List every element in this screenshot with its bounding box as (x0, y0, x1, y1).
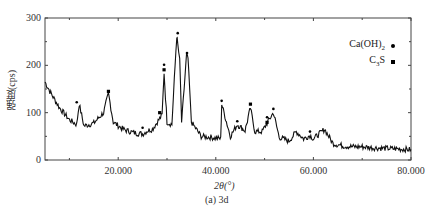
legend: Ca(OH)2 C3S (335, 38, 395, 70)
c3s-marker-icon (265, 121, 268, 124)
legend-item-c3s: C3S (335, 54, 395, 70)
c3s-marker-icon (249, 103, 252, 106)
legend-item-caoh2: Ca(OH)2 (335, 38, 395, 54)
caoh2-marker-icon (309, 130, 312, 133)
c3s-marker-icon (158, 111, 161, 114)
c3s-marker-icon (107, 90, 110, 93)
caoh2-marker-icon (266, 116, 269, 119)
x-tick-label: 80.000 (397, 165, 425, 176)
figure-caption: (a) 3d (205, 194, 229, 205)
caoh2-marker-icon (75, 101, 78, 104)
caoh2-marker-icon (236, 120, 239, 123)
x-tick-label: 60.000 (300, 165, 328, 176)
peak-markers (75, 32, 311, 133)
y-tick-label: 300 (26, 12, 41, 23)
square-marker-icon (391, 60, 395, 64)
caoh2-marker-icon (272, 108, 275, 111)
x-axis-label: 2θ(°) (214, 180, 235, 191)
y-tick-label: 100 (26, 107, 41, 118)
c3s-marker-icon (162, 68, 165, 71)
axis-ticks: 010020030020.00040.00060.00080.000 (26, 12, 425, 176)
caoh2-marker-icon (141, 127, 144, 130)
caoh2-marker-icon (220, 100, 223, 103)
caoh2-marker-icon (176, 32, 179, 35)
y-tick-label: 200 (26, 59, 41, 70)
y-axis-label: 强度(cps) (4, 70, 20, 110)
x-tick-label: 20.000 (104, 165, 132, 176)
x-tick-label: 40.000 (202, 165, 230, 176)
caoh2-marker-icon (163, 63, 166, 66)
legend-label: Ca(OH)2 (349, 38, 385, 54)
caoh2-marker-icon (186, 52, 189, 55)
y-tick-label: 0 (36, 154, 41, 165)
legend-label: C3S (369, 54, 385, 70)
circle-marker-icon (391, 44, 395, 48)
